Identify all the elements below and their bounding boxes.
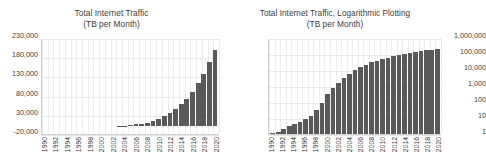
bar (298, 122, 303, 134)
plot-background-log (268, 39, 441, 135)
bar (336, 83, 341, 134)
plot-area-linear (41, 39, 219, 135)
bar (173, 109, 178, 126)
y-axis-tick: 1,000 (468, 80, 486, 88)
bar (314, 110, 319, 134)
y-axis-tick: 100,000 (460, 48, 486, 56)
bar-series-linear (42, 38, 219, 126)
bar (207, 62, 212, 127)
bar (145, 123, 150, 127)
plot-background-linear (41, 39, 219, 135)
bar (435, 49, 440, 134)
bar-series-log (269, 39, 441, 134)
bar (320, 103, 325, 134)
bar (364, 65, 369, 134)
bar (213, 50, 218, 126)
x-axis-tick: 2020 (212, 137, 219, 152)
x-axis-labels-log: 1990199219941996199820002002200420062008… (268, 137, 441, 161)
y-axis-tick: 10 (478, 112, 486, 120)
y-axis-labels-linear: -20,00030,00080,000130,000180,000230,000 (0, 36, 38, 140)
bar (391, 56, 396, 134)
bar (331, 88, 336, 134)
bar (179, 104, 184, 126)
bar (281, 129, 286, 134)
chart-title-linear: Total Internet Traffic (TB per Month) (0, 8, 223, 30)
bar (134, 124, 139, 126)
chart-title-linear-line2: (TB per Month) (0, 19, 223, 30)
bar (303, 119, 308, 134)
plot-area-log (268, 39, 441, 135)
bar (380, 59, 385, 134)
bar (347, 74, 352, 134)
bar (201, 74, 206, 126)
bar (397, 55, 402, 134)
chart-title-log-line1: Total Internet Traffic, Logarithmic Plot… (223, 8, 447, 19)
y-axis-tick: 1 (482, 128, 486, 136)
chart-title-linear-line1: Total Internet Traffic (0, 8, 223, 19)
bar (386, 58, 391, 134)
gridline-vertical (219, 39, 220, 134)
bar (276, 132, 281, 134)
x-axis-tick: 2020 (435, 137, 442, 152)
x-axis-slot: 2020 (213, 137, 219, 161)
bar (413, 52, 418, 134)
y-axis-tick: 1,000,000 (454, 32, 486, 40)
y-axis-tick: 130,000 (12, 70, 38, 78)
chart-title-log-line2: (TB per Month) (223, 19, 447, 30)
x-axis-slot: 2020 (435, 137, 441, 161)
bar (375, 61, 380, 134)
y-axis-tick: 230,000 (12, 32, 38, 40)
y-axis-tick: -20,000 (14, 128, 38, 136)
bar (358, 67, 363, 134)
bar (162, 116, 167, 126)
bar (139, 124, 144, 127)
bar (287, 126, 292, 134)
bar (168, 113, 173, 126)
bar (156, 119, 161, 126)
chart-title-log: Total Internet Traffic, Logarithmic Plot… (223, 8, 447, 30)
y-axis-tick: 180,000 (12, 51, 38, 59)
bar (151, 121, 156, 126)
bar (353, 70, 358, 134)
gridline-horizontal (42, 135, 219, 136)
bar (196, 83, 201, 126)
y-axis-tick: 30,000 (16, 109, 38, 117)
bar (424, 50, 429, 134)
bar (325, 94, 330, 134)
y-axis-tick: 80,000 (16, 90, 38, 98)
bar (419, 51, 424, 134)
bar (408, 53, 413, 134)
bar (292, 124, 297, 134)
bar (184, 99, 189, 126)
bar (128, 125, 133, 126)
y-axis-tick: 100 (474, 96, 486, 104)
bar (122, 126, 127, 127)
gridline-vertical (441, 39, 442, 134)
chart-panel-logarithmic: Total Internet Traffic, Logarithmic Plot… (223, 0, 447, 163)
gridline-horizontal (269, 135, 441, 136)
bar (429, 50, 434, 134)
bar (342, 78, 347, 134)
bar (190, 92, 195, 127)
y-axis-labels-log: 1101001,00010,000100,0001,000,000 (446, 36, 486, 140)
y-axis-tick: 10,000 (464, 64, 486, 72)
bar (402, 54, 407, 134)
chart-panel-linear: Total Internet Traffic (TB per Month) -2… (0, 0, 223, 163)
bar (309, 116, 314, 134)
x-axis-labels-linear: 1990199219941996199820002002200420062008… (41, 137, 219, 161)
bar (369, 62, 374, 134)
bar (270, 133, 275, 134)
